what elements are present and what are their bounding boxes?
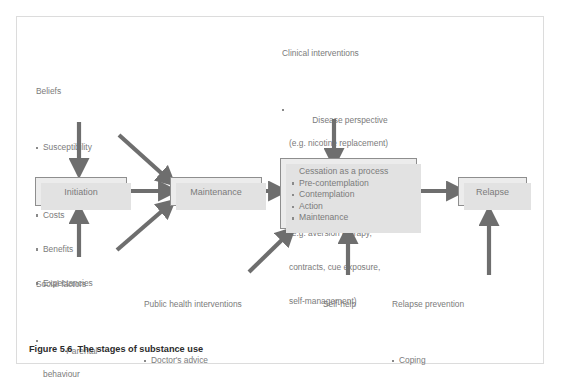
node-cessation-item: Maintenance: [292, 212, 407, 224]
node-initiation-label: Initiation: [64, 187, 98, 197]
node-cessation-list: Pre-contemplation Contemplation Action M…: [292, 178, 407, 224]
line: behaviour: [43, 369, 108, 380]
arrow-social-to-maintenance: [117, 205, 169, 250]
node-initiation[interactable]: Initiation: [35, 177, 127, 206]
node-cessation[interactable]: Cessation as a process Pre-contemplation…: [280, 158, 417, 229]
node-relapse-label: Relapse: [476, 187, 509, 197]
node-cessation-title: Cessation as a process: [292, 166, 407, 178]
figure-frame: Initiation Maintenance Cessation as a pr…: [16, 16, 544, 364]
node-cessation-item: Action: [292, 201, 407, 213]
node-cessation-item: Pre-contemplation: [292, 178, 407, 190]
arrow-publichealth-to-cessation: [249, 233, 289, 272]
node-maintenance[interactable]: Maintenance: [170, 177, 262, 206]
diagram-canvas: Initiation Maintenance Cessation as a pr…: [17, 17, 543, 363]
node-cessation-item: Contemplation: [292, 189, 407, 201]
node-maintenance-label: Maintenance: [190, 187, 242, 197]
arrow-beliefs-to-maintenance: [119, 135, 169, 180]
node-relapse[interactable]: Relapse: [458, 177, 527, 206]
